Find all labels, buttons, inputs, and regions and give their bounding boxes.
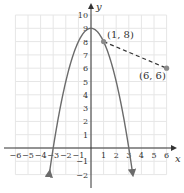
graph-figure: x y −6−5−4−3−2−1123456 10987654321−1−2 (… bbox=[0, 0, 184, 193]
x-tick-label: −5 bbox=[22, 151, 34, 160]
y-tick-label: 3 bbox=[83, 104, 88, 113]
point-1-8 bbox=[101, 39, 106, 44]
y-axis-label: y bbox=[95, 1, 102, 12]
y-tick-label: 4 bbox=[83, 91, 88, 100]
x-tick-label: 4 bbox=[139, 151, 144, 160]
y-tick-label: 2 bbox=[83, 117, 88, 126]
y-tick-label: −1 bbox=[76, 157, 88, 166]
x-tick-label: 5 bbox=[151, 151, 156, 160]
y-tick-label: −2 bbox=[76, 171, 88, 180]
x-axis-label: x bbox=[175, 153, 181, 164]
x-tick-label: 2 bbox=[114, 151, 119, 160]
x-tick-label: −2 bbox=[60, 151, 72, 160]
y-tick-label: 10 bbox=[78, 11, 88, 20]
y-tick-label: 8 bbox=[83, 38, 88, 47]
y-tick-label: 6 bbox=[83, 64, 88, 73]
x-tick-label: 1 bbox=[101, 151, 106, 160]
x-tick-label: −4 bbox=[35, 151, 47, 160]
y-tick-label: 5 bbox=[83, 78, 88, 87]
x-tick-label: 6 bbox=[164, 151, 169, 160]
x-tick-labels: −6−5−4−3−2−1123456 bbox=[10, 151, 170, 160]
y-tick-label: 7 bbox=[83, 51, 88, 60]
point-label-1-8: (1, 8) bbox=[107, 29, 134, 40]
y-tick-label: 1 bbox=[83, 131, 88, 140]
point-label-6-6: (6, 6) bbox=[139, 70, 166, 81]
chart-svg: x y −6−5−4−3−2−1123456 10987654321−1−2 (… bbox=[0, 0, 184, 193]
x-tick-label: −6 bbox=[10, 151, 22, 160]
